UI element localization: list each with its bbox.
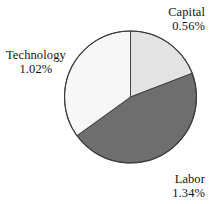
pie-label-capital: Capital 0.56% [168,5,205,33]
pie-chart-figure: Capital 0.56% Technology 1.02% Labor 1.3… [0,0,209,204]
pie-slice-group [64,31,196,163]
pie-label-capital-value: 0.56% [168,19,205,33]
pie-label-labor-value: 1.34% [172,186,205,200]
pie-label-technology-name: Technology [6,48,66,62]
pie-label-labor: Labor 1.34% [172,172,205,200]
pie-label-technology: Technology 1.02% [6,48,66,76]
pie-label-capital-name: Capital [168,5,205,19]
pie-label-technology-value: 1.02% [6,62,66,76]
pie-label-labor-name: Labor [172,172,205,186]
